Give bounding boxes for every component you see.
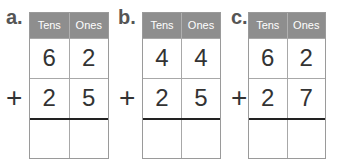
- tens-answer-cell[interactable]: [143, 120, 181, 158]
- tens-cell: 4: [143, 39, 181, 78]
- place-value-grid: Tens Ones 4 4 2 5: [142, 12, 221, 159]
- plus-sign: +: [231, 84, 247, 112]
- plus-sign: +: [6, 84, 22, 112]
- answer-row: [143, 118, 220, 158]
- tens-header: Tens: [143, 13, 181, 38]
- ones-header: Ones: [181, 13, 220, 38]
- ones-cell: 5: [69, 79, 109, 118]
- addend-row-1: 6 2: [30, 38, 108, 78]
- tens-header: Tens: [249, 13, 287, 38]
- ones-cell: 7: [287, 79, 326, 118]
- header-row: Tens Ones: [30, 13, 108, 38]
- tens-cell: 2: [143, 79, 181, 118]
- tens-cell: 6: [30, 39, 69, 78]
- tens-cell: 6: [249, 39, 287, 78]
- addend-row-1: 4 4: [143, 38, 220, 78]
- answer-row: [249, 118, 325, 158]
- problem-label: c.: [231, 6, 248, 29]
- tens-cell: 2: [249, 79, 287, 118]
- ones-cell: 2: [69, 39, 109, 78]
- problem-label: a.: [6, 6, 23, 29]
- place-value-grid: Tens Ones 6 2 2 5: [29, 12, 109, 159]
- addend-row-2: 2 7: [249, 78, 325, 118]
- plus-sign: +: [119, 84, 135, 112]
- tens-cell: 2: [30, 79, 69, 118]
- ones-cell: 5: [181, 79, 220, 118]
- ones-answer-cell[interactable]: [181, 120, 220, 158]
- header-row: Tens Ones: [249, 13, 325, 38]
- addend-row-2: 2 5: [143, 78, 220, 118]
- addend-row-2: 2 5: [30, 78, 108, 118]
- ones-header: Ones: [287, 13, 326, 38]
- answer-row: [30, 118, 108, 158]
- problem-label: b.: [118, 6, 136, 29]
- tens-answer-cell[interactable]: [30, 120, 69, 158]
- tens-header: Tens: [30, 13, 69, 38]
- header-row: Tens Ones: [143, 13, 220, 38]
- ones-cell: 4: [181, 39, 220, 78]
- ones-cell: 2: [287, 39, 326, 78]
- ones-header: Ones: [69, 13, 109, 38]
- addend-row-1: 6 2: [249, 38, 325, 78]
- tens-answer-cell[interactable]: [249, 120, 287, 158]
- place-value-grid: Tens Ones 6 2 2 7: [248, 12, 326, 159]
- ones-answer-cell[interactable]: [69, 120, 109, 158]
- ones-answer-cell[interactable]: [287, 120, 326, 158]
